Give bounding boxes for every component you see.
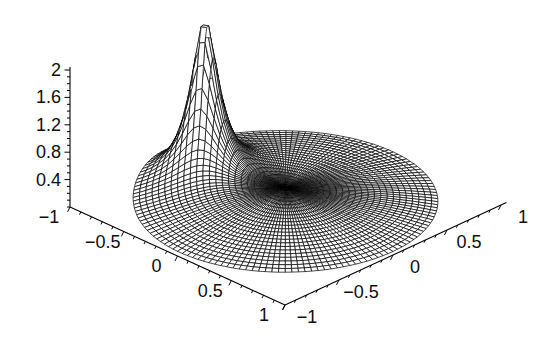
x-axis-tick-label: 1	[259, 305, 269, 325]
x-axis-tick	[144, 241, 145, 244]
x-axis-tick-label: −0.5	[85, 232, 121, 252]
z-axis: 0.40.81.21.62	[36, 60, 70, 207]
x-axis-tick	[101, 222, 102, 225]
x-axis-tick	[273, 300, 274, 303]
y-axis-tick-label: −0.5	[343, 282, 379, 302]
x-axis-tick-label: 0	[151, 256, 161, 276]
x-axis-tick	[229, 281, 231, 286]
x-axis-tick	[252, 290, 253, 293]
x-axis-tick-label: 0.5	[198, 281, 223, 301]
x-axis-tick	[133, 236, 134, 239]
x-axis-tick	[209, 271, 210, 274]
x-axis-tick	[121, 232, 123, 237]
z-axis-tick-label: 0.8	[36, 142, 61, 162]
x-axis-tick	[80, 212, 81, 215]
y-axis-tick-label: 1	[518, 207, 528, 227]
x-axis-tick	[112, 227, 113, 230]
x-axis-tick	[262, 295, 263, 298]
x-axis-tick	[198, 266, 199, 269]
z-axis-tick-label: 1.6	[36, 87, 61, 107]
wireframe-surface	[133, 25, 438, 272]
y-axis-tick-label: 0	[410, 257, 420, 277]
y-axis-tick-label: 0.5	[456, 232, 481, 252]
figure-container: −1−0.500.51−1−0.500.510.40.81.21.62	[0, 0, 555, 341]
x-axis-tick	[187, 261, 188, 264]
x-axis-tick	[241, 285, 242, 288]
x-axis-tick	[68, 207, 70, 212]
x-axis-tick	[166, 251, 167, 254]
z-axis-tick-label: 1.2	[36, 115, 61, 135]
z-axis-tick-label: 0.4	[36, 170, 61, 190]
surface-plot: −1−0.500.51−1−0.500.510.40.81.21.62	[0, 0, 555, 341]
y-axis-tick	[283, 305, 286, 310]
x-axis-tick	[175, 256, 177, 261]
z-axis-tick-label: 2	[51, 60, 61, 80]
x-axis-tick	[90, 217, 91, 220]
x-axis-tick	[219, 276, 220, 279]
x-axis-tick-label: −1	[39, 207, 60, 227]
x-axis-tick	[155, 246, 156, 249]
y-axis-tick-label: −1	[297, 307, 318, 327]
